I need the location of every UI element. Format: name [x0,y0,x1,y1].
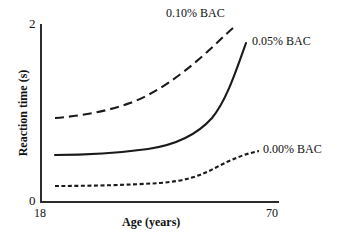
series-line-0-05-bac [55,43,246,155]
series-label-0-05-bac: 0.05% BAC [252,35,311,47]
series-label-0-10-bac: 0.10% BAC [166,7,225,19]
series-label-0-00-bac: 0.00% BAC [263,143,322,155]
series-line-0-10-bac [55,28,233,118]
series-line-0-00-bac [55,151,259,186]
reaction-time-line-chart: 2 0 18 70 Age (years) Reaction time (s) … [0,0,338,242]
x-axis-title: Age (years) [122,216,180,228]
y-axis-title: Reaction time (s) [17,61,29,165]
y-axis-tick-top: 2 [29,17,36,30]
x-axis-tick-right: 70 [266,207,278,219]
x-axis-tick-left: 18 [34,207,46,219]
